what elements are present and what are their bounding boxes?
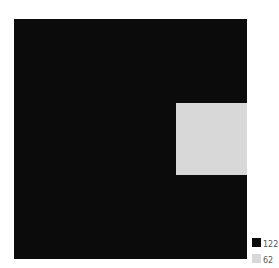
light-block	[176, 103, 247, 175]
legend-item: 122	[252, 234, 278, 250]
legend-swatch-dark	[252, 238, 261, 247]
legend-swatch-light	[252, 254, 261, 263]
legend: 122 62	[252, 234, 278, 266]
legend-label: 122	[263, 240, 278, 249]
legend-item: 62	[252, 250, 278, 266]
legend-label: 62	[263, 256, 273, 265]
chart-area	[14, 19, 247, 259]
